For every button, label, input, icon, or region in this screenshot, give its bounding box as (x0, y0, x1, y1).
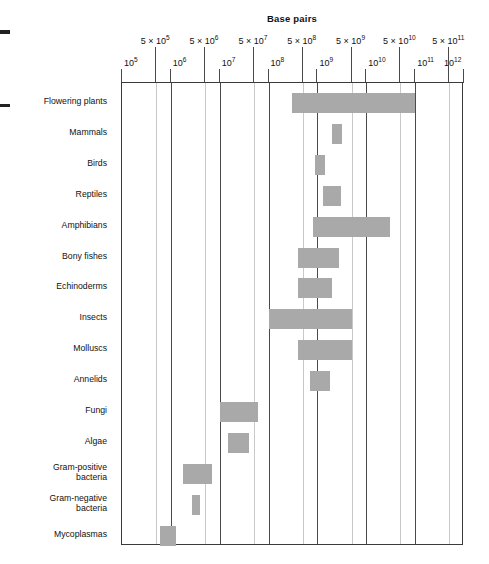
y-axis-label: Reptiles (76, 189, 107, 200)
gridline-major-3 (220, 83, 221, 544)
x-tick-stub-major-8 (463, 69, 464, 83)
x-tick-major-4: 108 (271, 58, 285, 69)
x-tick-stub-major-5 (316, 69, 317, 83)
gridline-minor-6 (400, 83, 401, 544)
x-tick-stub-minor-5 (351, 47, 352, 83)
x-tick-major-3: 107 (222, 58, 236, 69)
y-axis-label: Amphibians (62, 220, 107, 231)
x-tick-stub-minor-2 (204, 47, 205, 83)
x-tick-stub-major-4 (268, 69, 269, 83)
x-tick-major-1: 105 (124, 58, 138, 69)
page-edge-mark-top (0, 30, 10, 34)
y-axis-label: Mammals (69, 127, 107, 138)
y-axis-label: Gram-positive bacteria (53, 462, 107, 483)
x-tick-minor-5: 5 × 109 (336, 36, 365, 47)
range-bar (298, 248, 339, 268)
gridline-minor-5 (352, 83, 353, 544)
x-tick-minor-7: 5 × 1011 (432, 36, 464, 47)
x-tick-stub-minor-6 (399, 47, 400, 83)
x-tick-stub-major-2 (170, 69, 171, 83)
x-tick-stub-major-3 (219, 69, 220, 83)
y-axis-label: Molluscs (73, 343, 107, 354)
x-tick-major-2: 106 (173, 58, 187, 69)
x-tick-stub-major-1 (121, 69, 122, 83)
x-tick-stub-minor-1 (155, 47, 156, 83)
range-bar (269, 309, 352, 329)
range-bar (183, 464, 212, 484)
y-axis-label: Echinoderms (56, 281, 107, 292)
gridline-minor-3 (254, 83, 255, 544)
range-bar (160, 526, 176, 546)
x-tick-minor-6: 5 × 1010 (383, 36, 416, 47)
range-bar (313, 217, 390, 237)
x-tick-major-5: 109 (319, 58, 333, 69)
range-bar (292, 93, 415, 113)
range-bar (192, 495, 200, 515)
x-tick-stub-major-6 (365, 69, 366, 83)
y-axis-label: Insects (79, 312, 107, 323)
x-tick-minor-4: 5 × 108 (287, 36, 316, 47)
x-tick-stub-minor-4 (302, 47, 303, 83)
range-bar (332, 124, 342, 144)
x-tick-major-6: 1010 (368, 58, 385, 69)
gridline-major-7 (415, 83, 416, 544)
range-bar (323, 186, 341, 206)
y-axis-label: Mycoplasmas (54, 529, 107, 540)
x-tick-stub-minor-7 (448, 47, 449, 83)
plot-area (121, 82, 463, 545)
x-tick-major-8: 1012 (444, 58, 461, 69)
x-tick-minor-2: 5 × 106 (190, 36, 219, 47)
y-axis-label: Flowering plants (44, 96, 107, 107)
range-bar (298, 278, 332, 298)
x-tick-major-7: 1011 (417, 58, 434, 69)
gridline-major-2 (171, 83, 172, 544)
y-axis-label: Birds (87, 158, 107, 169)
range-bar (228, 433, 249, 453)
range-bar (310, 371, 330, 391)
chart-title: Base pairs (121, 13, 463, 24)
x-tick-minor-1: 5 × 105 (141, 36, 170, 47)
y-axis-label: Gram-negative bacteria (50, 493, 107, 514)
range-bar (315, 155, 324, 175)
y-axis-label: Annelids (74, 374, 107, 385)
y-axis-label: Algae (85, 436, 107, 447)
x-tick-minor-3: 5 × 107 (238, 36, 267, 47)
range-bar (298, 340, 352, 360)
range-bar (220, 402, 258, 422)
x-tick-stub-minor-3 (253, 47, 254, 83)
gridline-minor-1 (156, 83, 157, 544)
y-axis-category-labels: Flowering plantsMammalsBirdsReptilesAmph… (0, 82, 113, 545)
x-tick-stub-major-7 (414, 69, 415, 83)
genome-size-chart: Base pairs 5 × 1055 × 1065 × 1075 × 1085… (0, 0, 489, 564)
y-axis-label: Fungi (85, 405, 107, 416)
gridline-major-6 (366, 83, 367, 544)
y-axis-label: Bony fishes (62, 251, 107, 262)
gridline-minor-7 (449, 83, 450, 544)
